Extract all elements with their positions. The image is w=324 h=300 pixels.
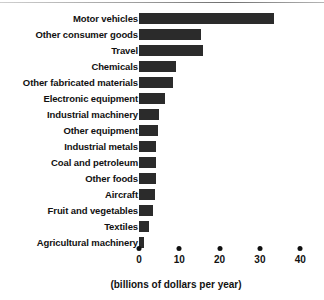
category-label: Coal and petroleum <box>4 156 138 172</box>
category-label: Motor vehicles <box>4 12 138 28</box>
bar-industrial-metals <box>139 141 156 152</box>
bar-other-consumer-goods <box>139 29 201 40</box>
category-label: Industrial metals <box>4 140 138 156</box>
bar-row: Motor vehicles <box>0 12 324 28</box>
bar-travel <box>139 45 203 56</box>
bar-industrial-machinery <box>139 109 159 120</box>
bar-row: Other consumer goods <box>0 28 324 44</box>
x-tick-dot <box>257 246 262 251</box>
x-tick-label: 0 <box>119 254 159 265</box>
x-tick-label: 30 <box>240 254 280 265</box>
bar-row: Aircraft <box>0 188 324 204</box>
x-tick-dot <box>177 246 182 251</box>
bar-chart: Motor vehicles Other consumer goods Trav… <box>0 0 324 300</box>
bar-row: Chemicals <box>0 60 324 76</box>
x-tick-label: 20 <box>200 254 240 265</box>
bar-aircraft <box>139 189 155 200</box>
category-label: Aircraft <box>4 188 138 204</box>
bar-row: Travel <box>0 44 324 60</box>
page-top-rule <box>0 2 324 3</box>
bar-row: Electronic equipment <box>0 92 324 108</box>
category-label: Electronic equipment <box>4 92 138 108</box>
category-label: Textiles <box>4 220 138 236</box>
x-tick-label: 40 <box>280 254 320 265</box>
bar-row: Other fabricated materials <box>0 76 324 92</box>
category-label: Other fabricated materials <box>4 76 138 92</box>
bar-row: Coal and petroleum <box>0 156 324 172</box>
category-label: Fruit and vegetables <box>4 204 138 220</box>
bar-textiles <box>139 221 149 232</box>
bar-fruit-and-vegetables <box>139 205 153 216</box>
category-label: Other equipment <box>4 124 138 140</box>
bar-chemicals <box>139 61 176 72</box>
x-tick-dot <box>217 246 222 251</box>
x-tick-dot <box>137 246 142 251</box>
bar-other-fabricated-materials <box>139 77 173 88</box>
bar-row: Industrial machinery <box>0 108 324 124</box>
plot-area: Motor vehicles Other consumer goods Trav… <box>0 12 324 258</box>
bar-row: Industrial metals <box>0 140 324 156</box>
bar-other-equipment <box>139 125 158 136</box>
bar-row: Other foods <box>0 172 324 188</box>
x-axis: 0 10 20 30 40 <box>0 246 324 276</box>
category-label: Chemicals <box>4 60 138 76</box>
bar-other-foods <box>139 173 156 184</box>
category-label: Other foods <box>4 172 138 188</box>
category-label: Industrial machinery <box>4 108 138 124</box>
x-tick-dot <box>298 246 303 251</box>
bar-electronic-equipment <box>139 93 165 104</box>
category-label: Travel <box>4 44 138 60</box>
bar-coal-and-petroleum <box>139 157 156 168</box>
axis-caption: (billions of dollars per year) <box>0 279 324 290</box>
category-label: Other consumer goods <box>4 28 138 44</box>
x-tick-label: 10 <box>159 254 199 265</box>
bar-row: Fruit and vegetables <box>0 204 324 220</box>
bar-motor-vehicles <box>139 13 274 24</box>
bar-row: Other equipment <box>0 124 324 140</box>
bar-row: Textiles <box>0 220 324 236</box>
